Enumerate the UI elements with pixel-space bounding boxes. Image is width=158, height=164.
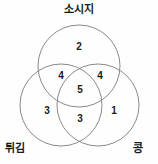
region-value-bean-only: 1: [106, 106, 122, 116]
region-value-fried-only: 3: [39, 106, 55, 116]
venn-circles-graphic: [0, 0, 158, 164]
set-label-fried: 튀김: [5, 143, 25, 154]
region-value-sausage-fried: 4: [53, 71, 69, 81]
region-value-sausage-only: 2: [71, 42, 87, 52]
venn-diagram: 소시지 튀김 콩 2 4 4 5 3 3 1: [0, 0, 158, 164]
region-value-fried-bean: 3: [72, 114, 88, 124]
set-label-sausage: 소시지: [0, 4, 158, 15]
set-label-bean: 콩: [133, 143, 143, 154]
region-value-all-three: 5: [72, 85, 88, 95]
region-value-sausage-bean: 4: [92, 71, 108, 81]
